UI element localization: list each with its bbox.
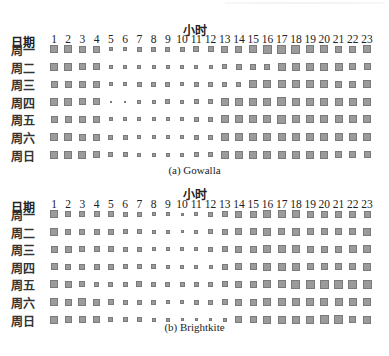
heatmap-cell [306,133,314,141]
heatmap-cell [180,300,184,304]
heatmap-cell [152,153,156,157]
heatmap-cell [93,316,100,323]
heatmap-cell [335,63,343,71]
heatmap-cell [320,80,328,88]
heatmap-cell [194,152,199,157]
day-row-label: 周四 [11,259,35,277]
heatmap-cell [152,135,156,139]
heatmap-cell [65,211,71,217]
heatmap-cell [180,153,184,157]
heatmap-cell [51,246,58,253]
heatmap-cell [221,151,229,159]
panel-caption: (a) Gowalla [0,164,389,176]
heatmap-cell [208,229,213,234]
heatmap-cell [363,245,371,253]
heatmap-cell [108,229,114,235]
heatmap-cell [364,63,371,70]
heatmap-cell [79,316,86,323]
heatmap-cell [194,247,198,251]
heatmap-cell [79,63,86,70]
heatmap-cell [136,281,142,287]
heatmap-cell [222,246,228,252]
heatmap-cell [166,65,170,69]
heatmap-cell [320,63,328,71]
heatmap-cell [250,299,257,306]
heatmap-cell [165,99,170,104]
heatmap-cell [222,64,227,69]
heatmap-cell [235,299,242,306]
heatmap-cell [208,135,213,140]
heatmap-cell [94,229,100,235]
heatmap-cell [180,82,184,86]
heatmap-cell [335,115,343,123]
heatmap-cell [349,81,356,88]
heatmap-cell [292,80,300,88]
heatmap-cell [292,316,300,324]
heatmap-cell [278,263,286,271]
heatmap-cell [334,280,343,289]
heatmap-cell [64,133,72,141]
heatmap-cell [209,65,213,69]
heatmap-cell [321,263,328,270]
heatmap-cell [236,64,242,70]
heatmap-cell [64,98,72,106]
heatmap-cell [222,229,228,235]
heatmap-cell [65,299,72,306]
heatmap-cell [79,264,85,270]
heatmap-cell [263,133,271,141]
heatmap-cell [363,45,371,53]
heatmap-cell [180,47,185,52]
heatmap-cell [263,316,271,324]
heatmap-cell [235,316,242,323]
heatmap-cell [222,211,228,217]
heatmap-cell [335,211,342,218]
heatmap-cell [250,281,257,288]
heatmap-cell [235,228,242,235]
heatmap-cell [166,212,170,216]
heatmap-cell [78,151,86,159]
heatmap-cell [108,282,113,287]
heatmap-cell [320,115,328,123]
heatmap-cell [222,281,228,287]
heatmap-cell [50,98,58,106]
heatmap-cell [51,263,58,270]
heatmap-cell [263,245,271,253]
heatmap-cell [235,281,242,288]
day-row-label: 周三 [11,76,35,94]
heatmap-cell [263,115,271,123]
heatmap-cell [320,133,328,141]
heatmap-cell [94,246,100,252]
heatmap-cell [93,46,100,53]
heatmap-cell [292,228,300,236]
heatmap-cell [364,211,371,218]
heatmap-cell [151,264,156,269]
heatmap-cell [208,152,213,157]
heatmap-cell [335,46,342,53]
heatmap-cell [123,300,128,305]
heatmap-cell [123,317,128,322]
heatmap-cell [306,45,314,53]
heatmap-cell [320,298,328,306]
heatmap-cell [94,282,99,287]
heatmap-cell [235,115,243,123]
day-row-label: 周四 [11,94,35,112]
heatmap-cell [123,212,128,217]
heatmap-cell [123,229,128,234]
day-row-label: 周五 [11,276,35,294]
heatmap-cell [208,247,213,252]
heatmap-cell [79,211,85,217]
heatmap-cell [292,98,300,106]
heatmap-cell [108,211,114,217]
heatmap-cell [151,47,156,52]
heatmap-cell [65,281,72,288]
heatmap-cell [250,228,257,235]
heatmap-cell [108,152,113,157]
heatmap-cell [152,65,156,69]
heatmap-cell [307,263,314,270]
heatmap-cell [93,81,100,88]
heatmap-cell [93,63,100,70]
heatmap-cell [137,317,142,322]
heatmap-cell [307,246,314,253]
heatmap-cell [349,245,357,253]
heatmap-cell [50,63,58,71]
